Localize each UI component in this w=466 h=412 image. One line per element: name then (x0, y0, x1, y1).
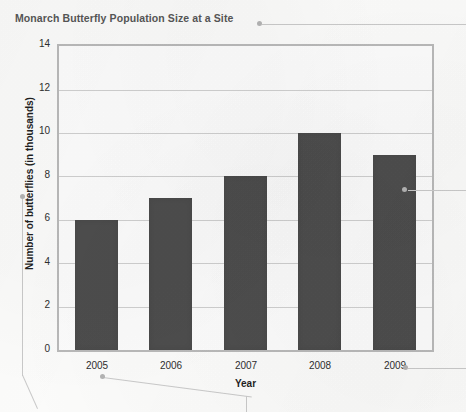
bar-2009-leader-line (408, 190, 466, 191)
title-callout-dot[interactable] (257, 21, 262, 26)
xtick-2006: 2006 (145, 360, 197, 371)
ytick-14: 14 (6, 38, 50, 49)
xtick-2008: 2008 (294, 360, 346, 371)
x-2005-leader-line-elbow (246, 396, 247, 412)
chart-title: Monarch Butterfly Population Size at a S… (15, 12, 233, 24)
ytick-0: 0 (6, 343, 50, 354)
bars-group (59, 46, 432, 350)
title-leader-line (262, 24, 466, 25)
bar-2008[interactable] (298, 133, 341, 350)
x-2005-callout-dot[interactable] (100, 374, 105, 379)
bar-2005[interactable] (75, 220, 118, 350)
y-axis-title: Number of butterflies (in thousands) (24, 94, 35, 274)
y-axis-leader-line-elbow (22, 375, 38, 409)
x-axis-title: Year (59, 378, 432, 389)
bar-2009-callout-dot[interactable] (402, 187, 407, 192)
x-2009-callout-dot[interactable] (403, 365, 408, 370)
ytick-2: 2 (6, 299, 50, 310)
y-axis-callout-dot[interactable] (20, 194, 25, 199)
ytick-12: 12 (6, 82, 50, 93)
xtick-2005: 2005 (71, 360, 123, 371)
bar-2009[interactable] (373, 155, 416, 350)
chart-page: Monarch Butterfly Population Size at a S… (0, 0, 466, 412)
xtick-2009: 2009 (369, 360, 421, 371)
x-axis-ticks: 2005 2006 2007 2008 2009 (59, 360, 432, 376)
bar-2007[interactable] (224, 176, 267, 350)
xtick-2007: 2007 (220, 360, 272, 371)
bar-2006[interactable] (149, 198, 192, 350)
